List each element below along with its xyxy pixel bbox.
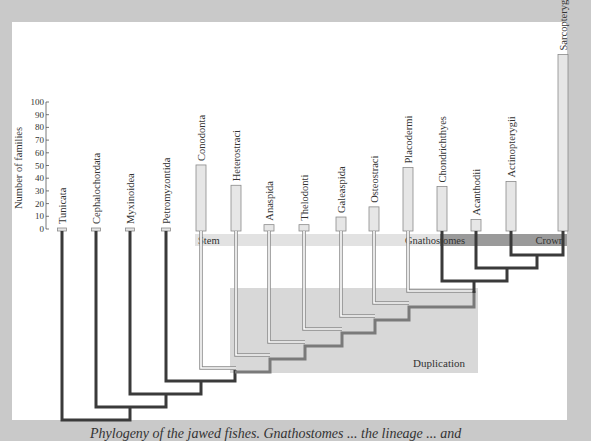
bars: TunicataCephalochordataMyxinoideaPetromy… — [57, 0, 569, 231]
y-tick-label: 90 — [35, 110, 45, 120]
bar-actinopterygii — [506, 181, 516, 231]
taxon-label: Chondrichthyes — [437, 116, 448, 183]
y-tick-label: 40 — [35, 173, 45, 183]
bar-cephalochordata — [92, 228, 101, 231]
taxon-label: Osteostraci — [369, 156, 380, 203]
y-tick-label: 70 — [35, 135, 45, 145]
bar-sarcopterygii — [558, 54, 568, 231]
taxon-label: Thelodonti — [299, 174, 310, 220]
y-tick-label: 10 — [35, 211, 45, 221]
bar-conodonta — [196, 165, 206, 231]
bar-chondrichthyes — [437, 187, 447, 231]
taxon-label: Galeaspida — [336, 166, 347, 213]
gnathostomes-label: Gnathostomes — [405, 235, 465, 246]
y-axis: 0102030405060708090100 Number of familie… — [13, 97, 49, 234]
taxon-label: Petromyzontida — [161, 157, 172, 224]
phylogeny-diagram: Duplication Stem Gnathostomes Crown 0102… — [0, 0, 591, 441]
taxon-label: Placodermi — [403, 116, 414, 164]
y-tick-label: 20 — [35, 199, 45, 209]
bar-petromyzontida — [162, 228, 171, 231]
y-tick-label: 50 — [35, 161, 45, 171]
bar-heterostraci — [231, 185, 241, 231]
y-tick-label: 100 — [31, 97, 45, 107]
stem-band — [195, 234, 440, 246]
taxon-label: Heterostraci — [231, 130, 242, 181]
y-axis-label: Number of families — [13, 127, 24, 209]
bar-galeaspida — [336, 217, 346, 231]
bar-thelodonti — [299, 225, 309, 231]
taxon-label: Actinopterygii — [506, 116, 517, 177]
bar-anaspida — [264, 225, 274, 231]
y-tick-label: 30 — [35, 186, 45, 196]
taxon-label: Conodonta — [196, 115, 207, 161]
taxon-label: Acanthodii — [471, 169, 482, 216]
taxon-label: Cephalochordata — [91, 153, 102, 224]
taxon-label: Sarcopterygii — [558, 0, 569, 50]
y-tick-label: 60 — [35, 148, 45, 158]
figure-caption: Phylogeny of the jawed fishes. Gnathosto… — [90, 426, 461, 441]
taxon-label: Myxinoidea — [125, 173, 136, 224]
bar-myxinoidea — [126, 228, 135, 231]
y-tick-label: 80 — [35, 122, 45, 132]
tree-outgroup-branches — [62, 231, 235, 420]
crown-label: Crown — [535, 235, 564, 246]
bar-tunicata — [58, 228, 67, 231]
duplication-label: Duplication — [413, 357, 465, 369]
bar-placodermi — [403, 168, 413, 232]
bar-osteostraci — [369, 207, 379, 231]
taxon-label: Tunicata — [57, 187, 68, 224]
figure: Duplication Stem Gnathostomes Crown 0102… — [0, 0, 591, 441]
y-tick-label: 0 — [40, 224, 45, 234]
bar-acanthodii — [471, 220, 481, 231]
taxon-label: Anaspida — [264, 181, 275, 221]
